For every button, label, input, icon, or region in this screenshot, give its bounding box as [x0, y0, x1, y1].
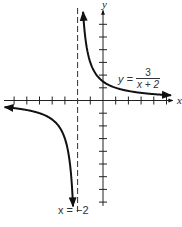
graph-plot [0, 0, 182, 227]
equation-numerator: 3 [145, 67, 151, 78]
axes [4, 10, 173, 206]
x-axis-label: x [177, 94, 182, 106]
equation-lhs: y = [118, 73, 133, 85]
curve-left-branch [5, 107, 73, 206]
equation-label: y = 3 x + 2 [118, 67, 160, 90]
equation-fraction: 3 x + 2 [136, 67, 160, 90]
equation-denominator: x + 2 [136, 78, 160, 90]
y-axis-label: y [102, 0, 107, 10]
asymptote-label: x = −2 [58, 204, 89, 216]
function-curves [5, 12, 171, 206]
